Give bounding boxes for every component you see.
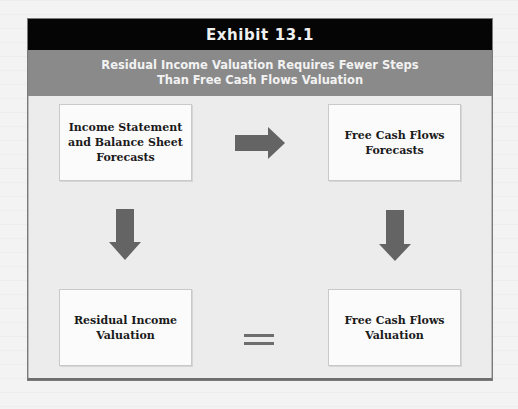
arrow-down-icon [378,209,412,263]
node-free-cash-flows-valuation: Free Cash Flows Valuation [328,289,461,366]
node-text-line: Residual Income [74,313,177,328]
node-text-line: Valuation [96,328,155,343]
node-text-line: Forecasts [365,143,424,158]
node-text-line: and Balance Sheet [68,135,183,150]
node-text-line: Forecasts [96,150,155,165]
node-free-cash-flows-forecasts: Free Cash Flows Forecasts [328,104,461,181]
subtitle-line-2: Than Free Cash Flows Valuation [157,73,363,88]
node-income-statement-balance-sheet-forecasts: Income Statement and Balance Sheet Forec… [59,104,192,181]
subtitle-line-1: Residual Income Valuation Requires Fewer… [101,58,418,73]
exhibit-label: Exhibit 13.1 [28,19,492,50]
node-text-line: Income Statement [69,120,183,135]
equals-icon [244,334,274,350]
arrow-right-icon [233,126,287,160]
arrow-down-icon [108,208,142,262]
node-text-line: Free Cash Flows [344,313,444,328]
exhibit-subtitle: Residual Income Valuation Requires Fewer… [28,50,492,96]
node-text-line: Valuation [365,328,424,343]
node-text-line: Free Cash Flows [344,128,444,143]
node-residual-income-valuation: Residual Income Valuation [59,289,192,366]
